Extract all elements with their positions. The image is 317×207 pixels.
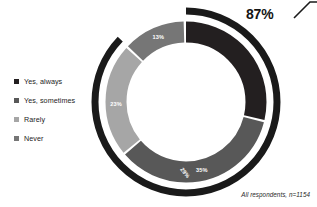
legend-swatch-icon — [14, 79, 19, 84]
legend-swatch-icon — [14, 98, 19, 103]
legend-item-label: Rarely — [24, 116, 45, 123]
donut-svg: 29% 35% 23% 13% — [86, 2, 286, 202]
donut-segment-value: 13% — [152, 34, 164, 40]
donut-segment-value: 23% — [110, 101, 122, 107]
chart-footnote: All respondents, n=1154 — [241, 191, 310, 198]
total-percentage-callout: 87% — [246, 7, 273, 21]
legend-item-label: Yes, sometimes — [24, 97, 75, 104]
legend-item-label: Yes, always — [24, 78, 62, 85]
donut-segment-value: 35% — [196, 167, 208, 173]
legend-swatch-icon — [14, 136, 19, 141]
donut-graphic: 29% 35% 23% 13% — [86, 2, 286, 202]
legend-swatch-icon — [14, 117, 19, 122]
donut-chart-figure: Yes, always Yes, sometimes Rarely Never — [0, 0, 317, 207]
callout-leader-line — [294, 2, 317, 18]
legend-item-label: Never — [24, 135, 43, 142]
